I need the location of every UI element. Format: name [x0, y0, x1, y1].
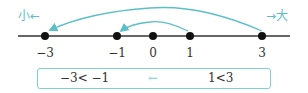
point-neg3	[41, 32, 49, 40]
arrow-1-to-neg1	[121, 22, 188, 31]
left-inequality: −3< −1	[60, 71, 109, 85]
point-0	[149, 32, 157, 40]
arrow-left-icon: ←	[148, 71, 158, 85]
arrow-3-to-neg3	[50, 7, 262, 31]
point-neg1	[113, 32, 121, 40]
tick-label-1: 1	[186, 46, 194, 60]
tick-label-neg1: −1	[108, 46, 126, 60]
tick-label-3: 3	[258, 46, 266, 60]
tick-label-neg3: −3	[36, 46, 54, 60]
point-1	[186, 32, 194, 40]
right-inequality: 1<3	[208, 71, 233, 85]
tick-label-0: 0	[149, 46, 157, 60]
summary-box: −3< −1 ← 1<3	[37, 68, 271, 89]
direction-large-label: →大	[266, 6, 288, 23]
point-3	[258, 32, 266, 40]
direction-small-label: 小←	[18, 6, 40, 23]
